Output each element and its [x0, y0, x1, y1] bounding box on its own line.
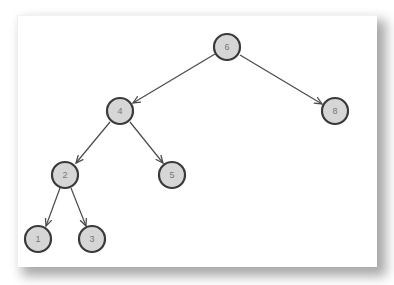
- node-label: 4: [117, 106, 122, 116]
- tree-node-2: 2: [52, 162, 78, 188]
- tree-diagram: 6 4 8 2 5 1 3: [0, 0, 394, 285]
- tree-node-4: 4: [107, 98, 133, 124]
- node-label: 6: [224, 42, 229, 52]
- node-label: 1: [35, 234, 40, 244]
- edge-6-4: [133, 54, 215, 103]
- tree-node-6: 6: [214, 34, 240, 60]
- edges: [46, 54, 322, 226]
- edge-4-2: [76, 122, 110, 163]
- tree-node-5: 5: [159, 162, 185, 188]
- node-label: 5: [169, 170, 174, 180]
- node-label: 8: [332, 106, 337, 116]
- tree-node-1: 1: [25, 226, 51, 252]
- node-label: 2: [62, 170, 67, 180]
- tree-node-3: 3: [79, 226, 105, 252]
- edge-2-1: [46, 188, 60, 226]
- edge-2-3: [71, 188, 86, 226]
- tree-node-8: 8: [322, 98, 348, 124]
- edge-4-5: [130, 122, 163, 163]
- node-label: 3: [89, 234, 94, 244]
- edge-6-8: [240, 55, 322, 104]
